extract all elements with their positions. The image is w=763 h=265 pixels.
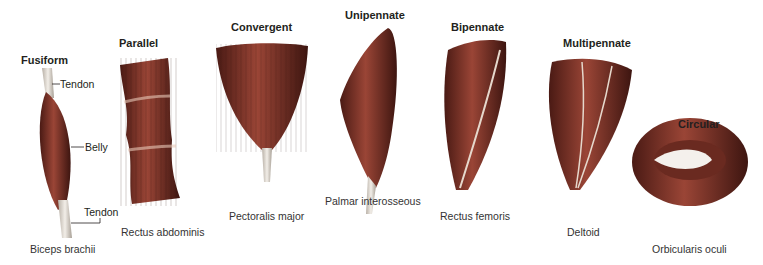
callout-tendon-top: Tendon bbox=[60, 78, 94, 90]
example-orbicularis-oculi: Orbicularis oculi bbox=[652, 243, 727, 255]
example-deltoid: Deltoid bbox=[567, 226, 600, 238]
example-rectus-femoris: Rectus femoris bbox=[440, 210, 510, 222]
example-palmar-interosseous: Palmar interosseous bbox=[325, 195, 421, 207]
bipennate-muscle-icon bbox=[444, 40, 506, 190]
type-title-fusiform: Fusiform bbox=[21, 54, 68, 66]
type-title-circular: Circular bbox=[678, 118, 720, 130]
unipennate-muscle-icon bbox=[340, 28, 397, 214]
muscle-illustrations bbox=[0, 0, 763, 265]
example-rectus-abdominis: Rectus abdominis bbox=[121, 226, 204, 238]
circular-muscle-icon bbox=[632, 118, 748, 206]
example-biceps-brachii: Biceps brachii bbox=[30, 243, 95, 255]
type-title-convergent: Convergent bbox=[231, 21, 292, 33]
example-pectoralis-major: Pectoralis major bbox=[229, 210, 304, 222]
callout-belly: Belly bbox=[85, 141, 108, 153]
type-title-bipennate: Bipennate bbox=[451, 21, 504, 33]
convergent-muscle-icon bbox=[216, 43, 308, 182]
fusiform-muscle-icon bbox=[40, 68, 72, 238]
type-title-unipennate: Unipennate bbox=[345, 9, 405, 21]
type-title-parallel: Parallel bbox=[119, 37, 158, 49]
multipennate-muscle-icon bbox=[549, 59, 632, 190]
type-title-multipennate: Multipennate bbox=[563, 37, 631, 49]
parallel-muscle-icon bbox=[118, 58, 180, 206]
callout-tendon-bottom: Tendon bbox=[84, 206, 118, 218]
